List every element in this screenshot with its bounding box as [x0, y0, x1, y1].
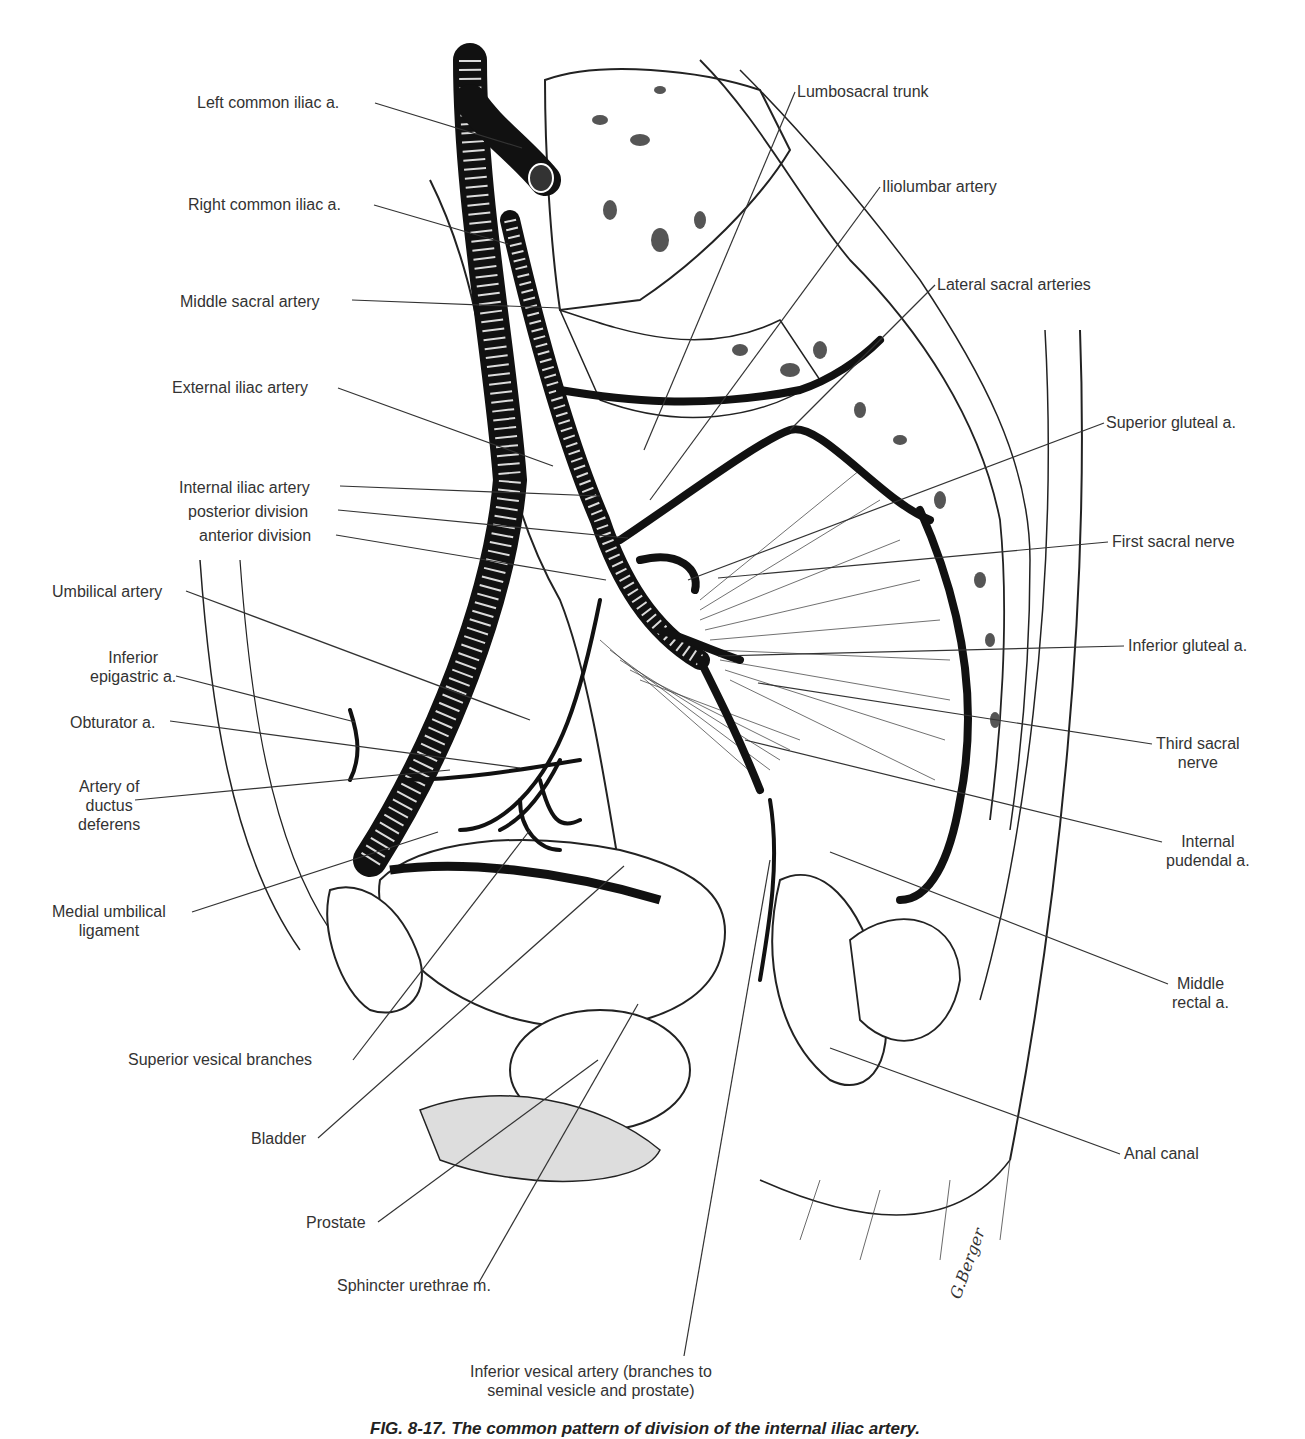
label-lumbosacral-trunk: Lumbosacral trunk: [797, 82, 929, 101]
label-superior-vesical-branches: Superior vesical branches: [128, 1050, 312, 1069]
svg-text:G.Berger: G.Berger: [946, 1225, 989, 1302]
label-third-sacral-nerve: Third sacral nerve: [1156, 734, 1240, 772]
label-bladder: Bladder: [251, 1129, 306, 1148]
label-inferior-gluteal: Inferior gluteal a.: [1128, 636, 1247, 655]
label-middle-rectal: Middle rectal a.: [1172, 974, 1229, 1012]
label-prostate: Prostate: [306, 1213, 366, 1232]
label-internal-pudendal: Internal pudendal a.: [1166, 832, 1250, 870]
label-right-common-iliac: Right common iliac a.: [188, 195, 341, 214]
label-medial-umbilical-ligament: Medial umbilical ligament: [52, 902, 166, 940]
label-umbilical-artery: Umbilical artery: [52, 582, 162, 601]
label-artery-of-ductus-deferens: Artery of ductus deferens: [78, 777, 140, 834]
label-posterior-division: posterior division: [188, 502, 308, 521]
label-iliolumbar-artery: Iliolumbar artery: [882, 177, 997, 196]
label-left-common-iliac: Left common iliac a.: [197, 93, 339, 112]
label-obturator: Obturator a.: [70, 713, 155, 732]
label-middle-sacral-artery: Middle sacral artery: [180, 292, 320, 311]
label-inferior-vesical-artery: Inferior vesical artery (branches to sem…: [470, 1362, 712, 1400]
label-anterior-division: anterior division: [199, 526, 311, 545]
label-sphincter-urethrae: Sphincter urethrae m.: [337, 1276, 491, 1295]
label-internal-iliac-artery: Internal iliac artery: [179, 478, 310, 497]
label-inferior-epigastric: Inferior epigastric a.: [90, 648, 176, 686]
label-external-iliac-artery: External iliac artery: [172, 378, 308, 397]
label-superior-gluteal: Superior gluteal a.: [1106, 413, 1236, 432]
figure-caption: FIG. 8-17. The common pattern of divisio…: [370, 1419, 920, 1439]
label-lateral-sacral-arteries: Lateral sacral arteries: [937, 275, 1091, 294]
label-anal-canal: Anal canal: [1124, 1144, 1199, 1163]
label-first-sacral-nerve: First sacral nerve: [1112, 532, 1235, 551]
